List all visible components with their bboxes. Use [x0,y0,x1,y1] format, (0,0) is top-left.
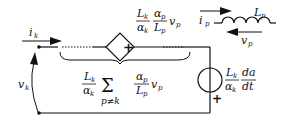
controlled-source-diamond: + [106,33,134,61]
current-arrow-ik: i k [22,26,62,45]
svg-text:p: p [158,84,163,92]
sum-expression: L k α k Σ p≠k α p L p v p [82,70,163,106]
voltage-arrow-vk: v k [18,52,38,112]
svg-text:p: p [248,40,253,48]
bottom-wire [37,111,210,115]
svg-text:k: k [90,90,94,98]
svg-text:k: k [91,76,95,84]
svg-text:p: p [161,27,166,35]
svg-text:i: i [199,14,203,27]
node-top-left [37,45,41,49]
svg-text:k: k [233,72,237,80]
svg-text:+: + [123,40,134,55]
svg-text:p≠k: p≠k [101,96,120,106]
svg-text:+: + [212,92,222,106]
svg-text:p: p [176,21,181,29]
inductor-legend: i p L p v p [199,6,276,48]
svg-text:Σ: Σ [101,75,114,96]
right-voltage-source: + L k α k da dt [198,66,256,106]
svg-text:k: k [144,27,148,35]
circuit-diagram: i k + L k α k α p L p v p L k α [0,0,284,127]
svg-text:p: p [143,76,148,84]
svg-text:da: da [242,66,256,79]
svg-text:p: p [161,13,166,21]
svg-text:v: v [18,78,25,91]
svg-text:k: k [232,86,236,94]
svg-text:v: v [151,78,158,91]
svg-text:p: p [143,90,148,98]
svg-text:i: i [29,26,33,39]
svg-text:k: k [25,84,29,92]
svg-text:dt: dt [242,80,254,93]
svg-text:k: k [144,13,148,21]
svg-text:p: p [205,20,210,28]
top-wire-left [37,45,106,49]
svg-text:p: p [261,12,266,20]
svg-text:v: v [241,34,248,47]
source-top-expression: L k α k α p L p v p [136,7,181,35]
svg-text:k: k [34,32,38,40]
svg-text:v: v [169,15,176,28]
